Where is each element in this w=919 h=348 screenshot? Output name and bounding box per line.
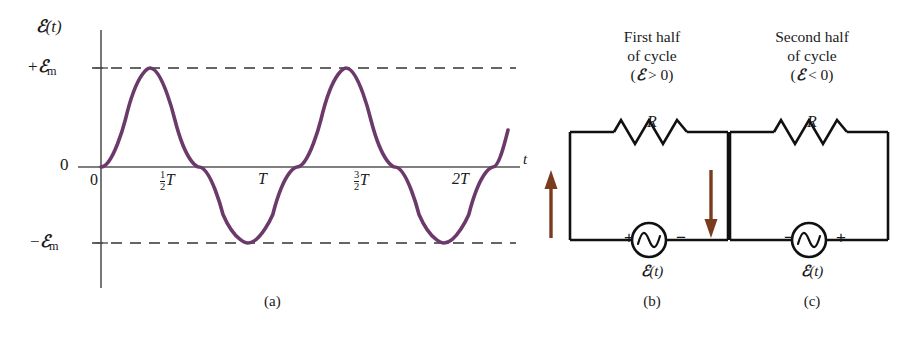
fraction-one-half: 12 [160,170,165,193]
relation-text: > 0) [644,66,673,83]
period-symbol: T [258,170,267,187]
fraction-numerator: 3 [354,170,359,181]
x-tick-T: T [258,170,267,188]
source-label-arg: (t) [809,263,823,279]
y-axis-label-arg: (t) [46,17,62,36]
panel-c-circuit-diagram [722,104,902,284]
arrow-head [705,219,718,238]
panel-b-heading-line3: (ℰ > 0) [562,66,742,85]
panel-b-heading: First half of cycle (ℰ > 0) [562,28,742,85]
fraction-denominator: 2 [354,181,359,193]
caption-panel-a: (a) [264,293,281,310]
arrow-head [545,170,558,189]
emf-symbol: ℰ [38,56,48,76]
resistor-symbol [614,120,687,144]
x-axis-label: t [523,152,527,167]
panel-c-heading-line3: (ℰ < 0) [722,66,902,85]
caption-panel-c: (c) [722,293,902,310]
y-axis-label: ℰ(t) [36,18,62,35]
emf-symbol: ℰ [796,65,805,84]
panel-c-source-label: ℰ(t) [722,262,902,280]
panel-c-circuit: Second half of cycle (ℰ < 0) R − + ℰ(t) … [722,0,902,348]
period-symbol: T [166,171,175,188]
source-label-arg: (t) [649,263,663,279]
x-tick-two-T: 2T [452,170,469,188]
x-axis-origin-label: 0 [90,172,98,188]
trough-subscript: m [49,239,59,253]
panel-c-right-terminal-sign: + [836,229,846,246]
fraction-numerator: 1 [160,170,165,181]
panel-b-left-terminal-sign: + [624,229,634,246]
panel-b-source-label: ℰ(t) [562,262,742,280]
relation-text: < 0) [804,66,833,83]
panel-c-heading-line1: Second half [722,28,902,47]
sine-curve [101,68,508,243]
period-symbol: T [360,171,369,188]
panel-c-left-terminal-sign: − [784,229,794,246]
emf-symbol: ℰ [801,262,810,280]
fraction-three-halves: 32 [354,170,359,193]
panel-b-heading-line1: First half [562,28,742,47]
peak-amplitude-label: +ℰm [28,58,57,78]
emf-symbol: ℰ [36,16,46,36]
emf-symbol: ℰ [636,65,645,84]
x-tick-three-halves-T: 32T [354,170,369,193]
emf-symbol: ℰ [641,262,650,280]
panel-c-heading: Second half of cycle (ℰ < 0) [722,28,902,85]
figure-ac-circuit: ℰ(t) +ℰm −ℰm 0 0 t 12T T 32T 2T (a) Firs… [0,0,919,348]
peak-sign: + [28,57,38,76]
panel-a-graph: ℰ(t) +ℰm −ℰm 0 0 t 12T T 32T 2T (a) [0,0,560,348]
panel-b-current-arrow [540,168,562,244]
peak-subscript: m [47,64,57,78]
panel-c-heading-line2: of cycle [722,47,902,66]
emf-symbol: ℰ [40,231,50,251]
current-arrow-up-icon [540,168,562,240]
period-symbol: 2T [452,170,469,187]
panel-b-heading-line2: of cycle [562,47,742,66]
trough-amplitude-label: −ℰm [30,233,59,253]
trough-sign: − [30,232,40,251]
y-axis-zero-label: 0 [60,156,69,173]
panel-b-right-terminal-sign: − [676,229,686,246]
current-arrow-down-icon [700,168,722,240]
panel-c-current-arrow [700,168,722,244]
resistor-symbol [774,120,847,144]
caption-panel-b: (b) [562,293,742,310]
fraction-denominator: 2 [160,181,165,193]
x-tick-half-T: 12T [160,170,175,193]
